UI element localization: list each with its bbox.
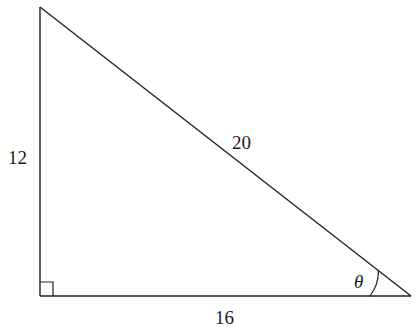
hypotenuse bbox=[40, 7, 411, 296]
hypotenuse-label: 20 bbox=[232, 132, 251, 153]
horizontal-leg-label: 16 bbox=[215, 307, 234, 327]
right-angle-marker-icon bbox=[40, 282, 53, 296]
right-triangle-diagram: 12 20 16 θ bbox=[0, 0, 419, 327]
angle-arc-icon bbox=[370, 271, 379, 297]
vertical-leg-label: 12 bbox=[8, 147, 27, 168]
angle-theta-label: θ bbox=[354, 271, 363, 292]
